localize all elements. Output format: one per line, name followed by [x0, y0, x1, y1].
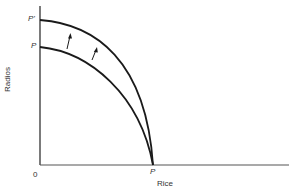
ppf-diagram	[0, 0, 301, 195]
shift-arrow-1	[67, 33, 72, 49]
label-p-x: P	[150, 168, 155, 176]
label-p-y: P	[31, 42, 36, 50]
curve-p-prime	[40, 20, 153, 165]
origin-label: 0	[33, 171, 37, 179]
curve-p	[40, 47, 153, 165]
label-p-prime: P'	[28, 15, 35, 23]
x-axis-label: Rice	[157, 180, 173, 188]
y-axis-label: Radios	[4, 67, 12, 92]
shift-arrow-2	[92, 47, 98, 60]
